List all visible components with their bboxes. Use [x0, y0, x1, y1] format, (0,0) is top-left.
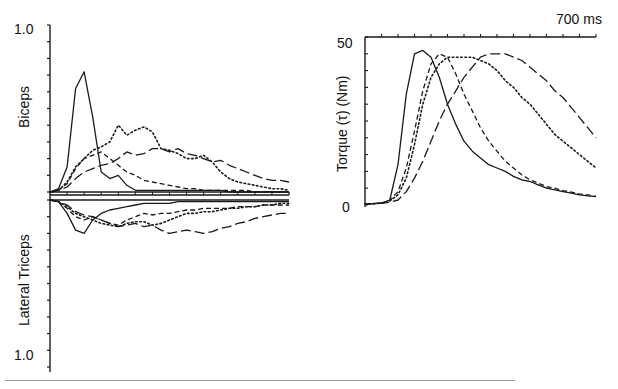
bottom-divider — [5, 380, 515, 381]
triceps-axis-label: Lateral Triceps — [16, 234, 32, 326]
torque-axis-label: Torque (τ) (Nm) — [334, 75, 350, 172]
biceps-max-tick-label: 1.0 — [14, 21, 33, 37]
torque-axes — [365, 34, 596, 207]
torque-short-dash-curve — [365, 54, 596, 204]
torque-series — [365, 50, 596, 204]
time-scale-label: 700 ms — [556, 11, 602, 27]
emg-series — [50, 72, 289, 234]
plot-canvas — [0, 0, 618, 389]
torque-max-tick-label: 50 — [337, 35, 353, 51]
torque-zero-tick-label: 0 — [342, 199, 350, 215]
emg-axes — [47, 25, 289, 372]
biceps-solid-trace — [50, 72, 289, 192]
figure: 1.0 1.0 Biceps Lateral Triceps 50 0 Torq… — [0, 0, 618, 389]
triceps-max-tick-label: 1.0 — [14, 347, 33, 363]
biceps-axis-label: Biceps — [16, 86, 32, 128]
triceps-long-dash-trace — [50, 200, 289, 233]
torque-dotted-curve — [365, 57, 596, 204]
torque-long-dash-curve — [365, 54, 596, 204]
triceps-solid-trace — [50, 200, 289, 233]
